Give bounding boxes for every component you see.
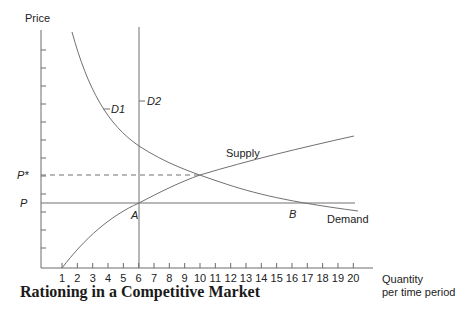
x-tick-label: 20 xyxy=(347,272,359,284)
supply-curve xyxy=(62,136,354,268)
chart-title: Rationing in a Competitive Market xyxy=(20,283,261,301)
x-tick-label: 17 xyxy=(301,272,313,284)
x-tick-label: 16 xyxy=(286,272,298,284)
y-axis-label: Price xyxy=(25,12,50,24)
point-b-label: B xyxy=(289,208,296,220)
d1-demand-curve xyxy=(72,32,358,211)
x-tick-label: 19 xyxy=(332,272,344,284)
rationing-chart: 1234567891011121314151617181920 Price Qu… xyxy=(0,0,461,317)
supply-label: Supply xyxy=(226,147,260,159)
y-axis-ticks xyxy=(41,50,46,248)
x-tick-label: 15 xyxy=(271,272,283,284)
x-axis-ticks: 1234567891011121314151617181920 xyxy=(59,263,359,284)
p-label: P xyxy=(20,197,28,209)
point-a-label: A xyxy=(130,209,138,221)
x-axis-label-line2: per time period xyxy=(382,286,455,298)
demand-label: Demand xyxy=(327,213,369,225)
d2-label: D2 xyxy=(147,95,161,107)
x-axis-label-line1: Quantity xyxy=(382,273,423,285)
d1-label: D1 xyxy=(111,103,125,115)
p-star-label: P* xyxy=(17,169,29,181)
x-tick-label: 18 xyxy=(317,272,329,284)
